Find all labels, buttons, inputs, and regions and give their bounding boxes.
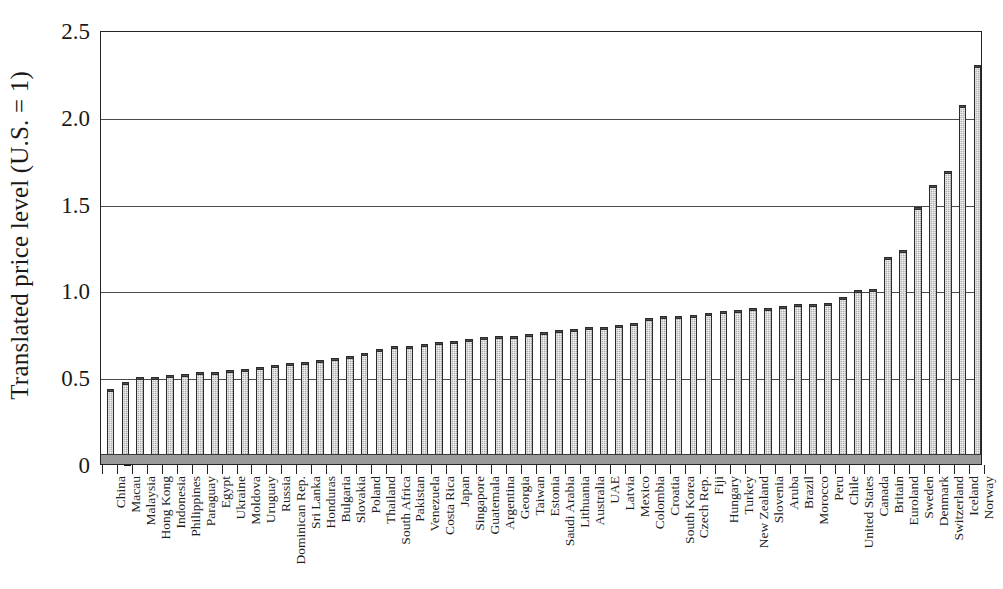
x-tick-mark	[580, 465, 581, 474]
x-tick-mark	[237, 465, 238, 474]
y-tick-label: 0.5	[36, 367, 90, 390]
bar-cap	[226, 370, 234, 373]
x-tick-label: Malaysia	[144, 476, 158, 526]
bar	[794, 304, 802, 464]
x-tick-mark	[670, 465, 671, 474]
bar	[510, 336, 518, 464]
x-tick-label: Slovakia	[354, 476, 368, 523]
x-tick-mark	[251, 465, 252, 474]
bar	[525, 334, 533, 464]
bar	[331, 358, 339, 464]
bar-cap	[211, 372, 219, 375]
bar-cap	[734, 310, 742, 313]
x-tick-label: Slovenia	[772, 476, 786, 523]
y-axis-ticks: 00.51.01.52.02.5	[34, 0, 90, 589]
bar	[226, 370, 234, 464]
bar	[824, 303, 832, 464]
x-tick-mark	[820, 465, 821, 474]
x-tick-label: Australia	[593, 476, 607, 526]
x-tick-mark	[835, 465, 836, 474]
bar-cap	[675, 316, 683, 319]
x-tick-mark	[117, 465, 118, 474]
y-tick-label: 1.0	[36, 280, 90, 303]
bar	[450, 341, 458, 464]
x-tick-label: Uruguay	[264, 476, 278, 523]
x-tick-mark	[700, 465, 701, 474]
x-tick-mark	[207, 465, 208, 474]
bar-cap	[122, 382, 130, 385]
x-tick-mark	[222, 465, 223, 474]
x-tick-mark	[864, 465, 865, 474]
x-tick-mark	[685, 465, 686, 474]
bar	[465, 339, 473, 464]
x-tick-mark	[894, 465, 895, 474]
x-tick-label: Dominican Rep.	[294, 476, 308, 564]
x-tick-mark	[281, 465, 282, 474]
x-tick-label: Bulgaria	[339, 476, 353, 523]
x-tick-mark	[849, 465, 850, 474]
bar-cap	[421, 344, 429, 347]
x-tick-mark	[431, 465, 432, 474]
bar-cap	[107, 389, 115, 392]
bar	[196, 372, 204, 464]
bar	[391, 346, 399, 464]
x-tick-label: Moldova	[249, 476, 263, 525]
bar-cap	[884, 257, 892, 260]
bar	[361, 353, 369, 464]
x-tick-mark	[640, 465, 641, 474]
x-tick-label: Lithuania	[578, 476, 592, 528]
x-tick-mark	[416, 465, 417, 474]
x-tick-mark	[565, 465, 566, 474]
bar-cap	[525, 334, 533, 337]
bar	[974, 65, 982, 464]
x-tick-label: Georgia	[518, 476, 532, 519]
bar	[480, 337, 488, 464]
bar-cap	[256, 367, 264, 370]
bar	[675, 316, 683, 464]
x-tick-label: Honduras	[324, 476, 338, 529]
x-tick-label: Britain	[892, 476, 906, 514]
bar-cap	[136, 377, 144, 380]
x-tick-mark	[132, 465, 133, 474]
bar	[166, 375, 174, 464]
x-tick-label: Japan	[458, 476, 472, 507]
x-tick-mark	[102, 465, 103, 474]
bar-cap	[480, 337, 488, 340]
x-tick-label: Euroland	[907, 476, 921, 526]
bar	[869, 289, 877, 464]
x-tick-mark	[192, 465, 193, 474]
bar-cap	[854, 290, 862, 293]
x-tick-mark	[775, 465, 776, 474]
bar-cap	[376, 349, 384, 352]
bar	[959, 105, 967, 464]
bar-cap	[959, 105, 967, 108]
y-tick-label: 0	[36, 454, 90, 477]
bar-cap	[346, 356, 354, 359]
bar	[854, 290, 862, 464]
x-tick-mark	[506, 465, 507, 474]
bar-cap	[196, 372, 204, 375]
x-tick-label: Mexico	[638, 476, 652, 517]
bar-cap	[779, 306, 787, 309]
x-tick-label: Ukraine	[234, 476, 248, 519]
bar-cap	[316, 360, 324, 363]
x-tick-mark	[446, 465, 447, 474]
bar-cap	[899, 250, 907, 253]
bar-cap	[974, 65, 982, 68]
x-tick-label: Sri Lanka	[309, 476, 323, 529]
bar	[301, 362, 309, 464]
bar-cap	[331, 358, 339, 361]
bar	[406, 346, 414, 464]
bar-cap	[406, 346, 414, 349]
bar	[764, 308, 772, 464]
bar	[346, 356, 354, 464]
bar-cap	[301, 362, 309, 365]
bar	[107, 389, 115, 464]
y-tick-label: 2.0	[36, 107, 90, 130]
x-tick-label: Taiwan	[533, 476, 547, 516]
bar-cap	[929, 185, 937, 188]
x-tick-label: Brazil	[802, 476, 816, 509]
x-tick-mark	[162, 465, 163, 474]
x-tick-mark	[371, 465, 372, 474]
x-tick-mark	[790, 465, 791, 474]
